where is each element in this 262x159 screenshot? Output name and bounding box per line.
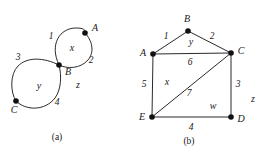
vertex-D — [228, 114, 234, 120]
edge-label-1: 1 — [49, 32, 54, 42]
vertex-label-A: A — [92, 23, 98, 33]
figure-a-caption: (a) — [52, 132, 63, 142]
edge-2-arc — [59, 33, 92, 68]
face-label-w: w — [210, 101, 217, 111]
vertex-label-C: C — [238, 46, 245, 56]
face-label-y: y — [189, 37, 193, 47]
edge-3-arc — [12, 59, 59, 101]
face-label-x: x — [165, 77, 169, 87]
edge-label-3: 3 — [236, 80, 241, 90]
figure-a-graph — [0, 0, 131, 159]
figure-screenshot: A B C 1 2 3 4 x y z (a) — [0, 0, 262, 159]
face-label-y: y — [37, 81, 41, 91]
vertex-B — [56, 62, 62, 68]
edge-label-3: 3 — [16, 53, 21, 63]
edge-label-6: 6 — [188, 58, 193, 68]
face-label-x: x — [70, 43, 74, 53]
face-label-z: z — [251, 94, 255, 104]
vertex-label-B: B — [65, 67, 71, 77]
edge-label-4: 4 — [189, 123, 194, 133]
edge-label-4: 4 — [55, 98, 60, 108]
vertex-E — [149, 114, 155, 120]
vertex-A — [150, 51, 156, 57]
vertex-label-B: B — [184, 14, 190, 24]
vertex-label-D: D — [237, 114, 244, 124]
vertex-C — [228, 50, 234, 56]
edge-label-7: 7 — [187, 89, 192, 99]
edge-label-1: 1 — [164, 32, 169, 42]
edge-A-E — [152, 54, 153, 117]
figure-b-graph — [131, 0, 262, 159]
vertex-label-C: C — [11, 105, 18, 115]
vertex-label-A: A — [140, 48, 146, 58]
vertex-A — [82, 30, 88, 36]
edge-A-B — [153, 31, 188, 54]
vertex-label-E: E — [139, 112, 145, 122]
figure-a: A B C 1 2 3 4 x y z (a) — [0, 0, 131, 159]
face-label-z: z — [76, 80, 80, 90]
vertex-B — [185, 28, 191, 34]
figure-b: B A C E D 1 2 6 3 4 5 7 y x w z (b) — [131, 0, 262, 159]
edge-label-2: 2 — [210, 32, 215, 42]
edge-A-C — [153, 53, 231, 54]
edge-label-2: 2 — [89, 56, 94, 66]
figure-b-caption: (b) — [183, 136, 194, 146]
edge-label-5: 5 — [142, 80, 147, 90]
vertex-C — [13, 98, 19, 104]
